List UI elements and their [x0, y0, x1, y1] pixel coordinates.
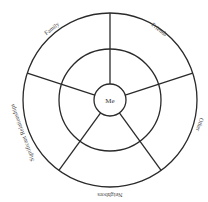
- spoke-lower-right: [119, 113, 161, 170]
- sector-label-family: Family: [43, 21, 60, 36]
- sector-label-neighbors: Neighbors: [97, 192, 123, 198]
- spoke-upper-left: [27, 73, 95, 95]
- spoke-upper-right: [125, 73, 193, 95]
- sector-label-friends: Friends: [150, 22, 168, 38]
- social-wheel-diagram: Me Friends Other Neighbors Significant R…: [0, 0, 208, 202]
- sector-label-significant-relationships: Significant Relationships: [9, 103, 36, 163]
- sector-label-other: Other: [195, 117, 205, 132]
- center-label: Me: [105, 97, 114, 105]
- spoke-lower-left: [59, 113, 101, 170]
- spokes: [27, 13, 192, 170]
